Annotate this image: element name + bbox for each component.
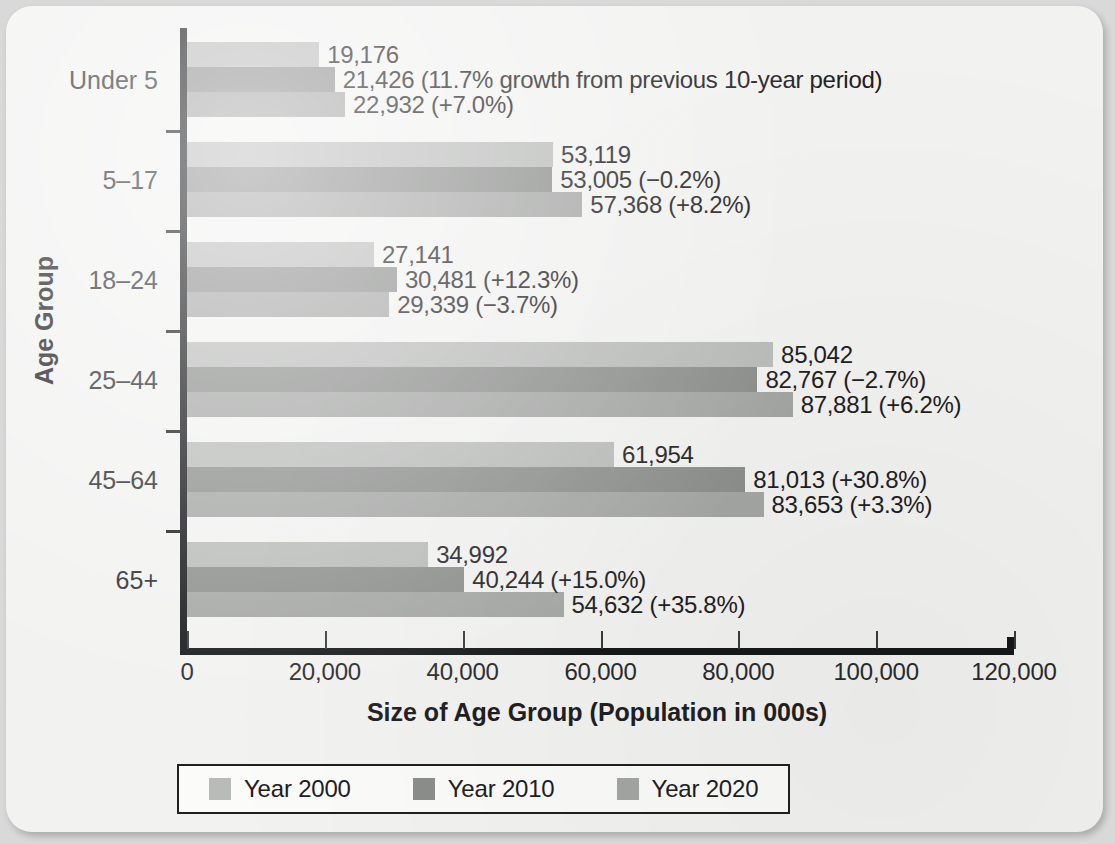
legend-swatch xyxy=(617,778,639,800)
y-axis-category-label: Under 5 xyxy=(20,65,180,94)
bar xyxy=(187,92,345,117)
bar-value-label: 27,141 xyxy=(382,241,454,269)
x-axis-tick-label: 60,000 xyxy=(564,658,636,686)
x-axis-tick-label: 120,000 xyxy=(971,658,1056,686)
bar xyxy=(187,542,428,567)
x-axis-tick xyxy=(876,631,878,649)
x-axis-tick xyxy=(1014,631,1016,649)
y-axis-tick xyxy=(166,430,181,433)
bar xyxy=(187,367,757,392)
x-axis-tick xyxy=(463,631,465,649)
x-axis-line xyxy=(180,648,1014,655)
x-axis-tick-label: 20,000 xyxy=(289,658,361,686)
y-axis-tick xyxy=(166,530,181,533)
bar xyxy=(187,342,773,367)
x-axis-tick xyxy=(601,631,603,649)
legend-item[interactable]: Year 2000 xyxy=(209,775,351,803)
bar-value-label: 19,176 xyxy=(327,41,399,69)
y-axis-tick xyxy=(166,130,181,133)
x-axis-tick-label: 40,000 xyxy=(427,658,499,686)
chart-legend: Year 2000Year 2010Year 2020 xyxy=(177,764,790,814)
bar-value-label: 53,119 xyxy=(561,141,631,169)
legend-label: Year 2020 xyxy=(652,775,759,803)
legend-swatch xyxy=(209,778,231,800)
bar xyxy=(187,67,335,92)
bar-value-label: 40,244 (+15.0%) xyxy=(472,566,646,594)
bar-value-label: 85,042 xyxy=(781,341,853,369)
bar-value-label: 61,954 xyxy=(622,441,694,469)
chart-page: 020,00040,00060,00080,000100,000120,000 … xyxy=(6,6,1103,832)
x-axis-tick xyxy=(738,631,740,649)
y-axis-tick xyxy=(166,330,181,333)
x-axis-tick xyxy=(187,631,189,649)
bar xyxy=(187,442,614,467)
bar-value-label: 54,632 (+35.8%) xyxy=(572,591,746,619)
y-axis-category-label: 45–64 xyxy=(20,465,180,494)
x-axis-end-cap xyxy=(1007,637,1014,655)
bar-value-label: 82,767 (−2.7%) xyxy=(765,366,926,394)
y-axis-line xyxy=(180,28,187,648)
bar xyxy=(187,42,319,67)
bar xyxy=(187,142,553,167)
bar xyxy=(187,567,464,592)
bar-value-label: 21,426 (11.7% growth from previous 10-ye… xyxy=(343,66,883,94)
legend-item[interactable]: Year 2020 xyxy=(617,775,759,803)
x-axis-tick-label: 0 xyxy=(180,658,193,686)
bar xyxy=(187,292,389,317)
bar-value-label: 29,339 (−3.7%) xyxy=(397,291,558,319)
bar-value-label: 22,932 (+7.0%) xyxy=(353,91,514,119)
bar-value-label: 34,992 xyxy=(436,541,508,569)
bar-chart-plot-area: 020,00040,00060,00080,000100,000120,000 … xyxy=(6,6,1103,832)
bar xyxy=(187,592,564,617)
bar-value-label: 57,368 (+8.2%) xyxy=(590,191,751,219)
legend-item[interactable]: Year 2010 xyxy=(413,775,555,803)
x-axis-tick xyxy=(325,631,327,649)
y-axis-tick xyxy=(166,230,181,233)
bar-value-label: 87,881 (+6.2%) xyxy=(801,391,962,419)
bar xyxy=(187,192,582,217)
bar-value-label: 81,013 (+30.8%) xyxy=(753,466,927,494)
legend-label: Year 2000 xyxy=(244,775,351,803)
bar xyxy=(187,167,552,192)
bar xyxy=(187,392,793,417)
x-axis-title: Size of Age Group (Population in 000s) xyxy=(180,698,1014,727)
bar xyxy=(187,242,374,267)
bar-value-label: 53,005 (−0.2%) xyxy=(560,166,721,194)
x-axis-tick-label: 80,000 xyxy=(702,658,774,686)
y-axis-title: Age Group xyxy=(30,191,59,451)
bar-value-label: 83,653 (+3.3%) xyxy=(772,491,933,519)
legend-swatch xyxy=(413,778,435,800)
bar xyxy=(187,267,397,292)
legend-label: Year 2010 xyxy=(448,775,555,803)
bar-value-label: 30,481 (+12.3%) xyxy=(405,266,579,294)
bar xyxy=(187,492,764,517)
x-axis-tick-label: 100,000 xyxy=(833,658,918,686)
y-axis-category-label: 65+ xyxy=(20,565,180,594)
bar xyxy=(187,467,745,492)
